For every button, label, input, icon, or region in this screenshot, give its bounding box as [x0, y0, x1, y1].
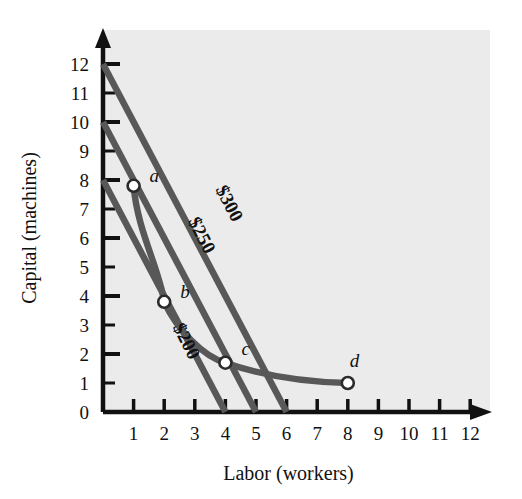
x-tick-label: 6	[282, 423, 292, 444]
data-point-b	[158, 296, 170, 308]
y-origin-label: 0	[80, 402, 90, 423]
y-tick-label: 11	[71, 83, 89, 104]
y-tick-label: 9	[80, 141, 90, 162]
x-tick-label: 12	[461, 423, 480, 444]
y-tick-label: 4	[80, 286, 90, 307]
x-tick-label: 9	[374, 423, 384, 444]
isoquant-isocost-chart: 1234567891011120123456789101112$200$250$…	[0, 0, 522, 499]
x-tick-label: 3	[190, 423, 200, 444]
plot-background	[103, 30, 490, 412]
y-tick-label: 8	[80, 170, 90, 191]
y-tick-label: 6	[80, 228, 90, 249]
point-label-c: c	[241, 338, 250, 359]
x-axis-title: Labor (workers)	[223, 462, 354, 485]
x-tick-label: 2	[159, 423, 169, 444]
point-label-a: a	[150, 165, 160, 186]
y-tick-label: 2	[80, 344, 90, 365]
y-axis-title-group: Capital (machines)	[18, 152, 41, 304]
x-tick-label: 5	[251, 423, 261, 444]
data-point-a	[128, 180, 140, 192]
x-tick-label: 10	[400, 423, 419, 444]
y-tick-label: 5	[80, 257, 90, 278]
point-label-d: d	[350, 350, 360, 371]
y-axis-title: Capital (machines)	[18, 152, 41, 304]
figure-canvas: 1234567891011120123456789101112$200$250$…	[0, 0, 522, 499]
x-tick-label: 7	[312, 423, 322, 444]
x-tick-label: 8	[343, 423, 353, 444]
y-tick-label: 1	[80, 373, 90, 394]
y-tick-label: 3	[80, 315, 90, 336]
x-tick-label: 4	[221, 423, 231, 444]
y-tick-label: 10	[70, 112, 89, 133]
data-point-d	[342, 377, 354, 389]
y-tick-label: 7	[80, 199, 90, 220]
data-point-c	[219, 357, 231, 369]
x-tick-label: 1	[129, 423, 139, 444]
x-tick-label: 11	[430, 423, 448, 444]
point-label-b: b	[180, 281, 190, 302]
y-tick-label: 12	[70, 54, 89, 75]
